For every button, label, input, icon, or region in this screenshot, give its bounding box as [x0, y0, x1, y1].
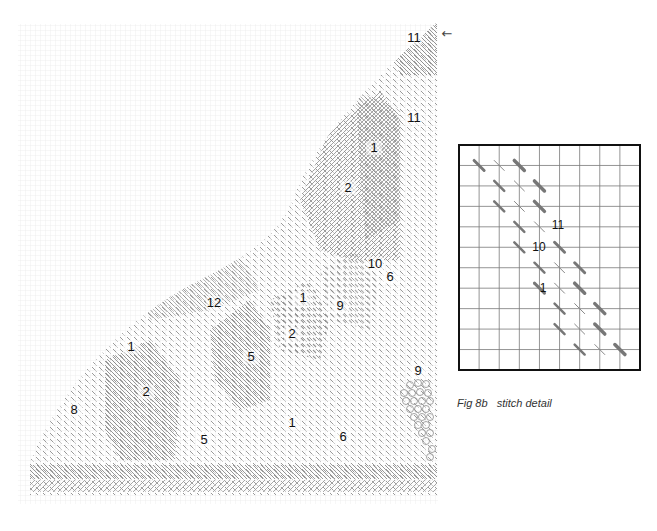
- stitch-label: 1: [370, 140, 377, 155]
- stitch-label: 11: [407, 30, 421, 45]
- stitch-label: 6: [386, 269, 393, 284]
- stitch-label: 9: [414, 363, 421, 378]
- stitch-label: 11: [407, 110, 421, 125]
- inset-grid: [459, 145, 640, 370]
- stitch-label: 6: [339, 429, 346, 444]
- stitch-label: 2: [344, 180, 351, 195]
- stitch-label: 2: [142, 384, 149, 399]
- stitch-label: 1: [288, 415, 295, 430]
- figure-canvas: ← 1111121061219215928165 11101: [0, 0, 657, 531]
- stitch-label: 10: [368, 256, 382, 271]
- start-arrow-icon: ←: [442, 26, 453, 41]
- stitch-label: 1: [127, 339, 134, 354]
- stitch-label: 2: [288, 326, 295, 341]
- stitch-label: 9: [336, 298, 343, 313]
- stitch-label: 12: [207, 295, 221, 310]
- figure-caption: Fig 8b stitch detail: [457, 397, 552, 409]
- stitch-label: 8: [70, 402, 77, 417]
- stitch-detail-inset: 11101: [459, 145, 640, 370]
- inset-label: 1: [540, 281, 547, 295]
- stitch-label: 1: [299, 290, 306, 305]
- stitch-label: 5: [200, 432, 207, 447]
- inset-label: 11: [552, 218, 565, 232]
- inset-label: 10: [532, 240, 546, 254]
- stitch-label: 5: [247, 349, 254, 364]
